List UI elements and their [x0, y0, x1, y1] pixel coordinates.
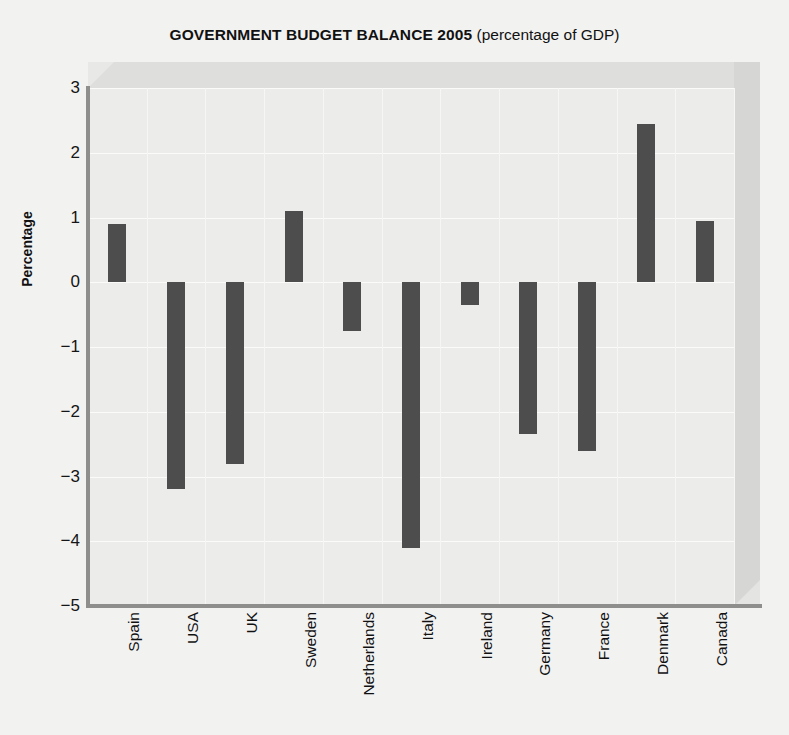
gridline-vertical — [617, 88, 618, 606]
gridline-vertical — [440, 88, 441, 606]
x-axis-labels: SpainUSAUKSwedenNetherlandsItalyIrelandG… — [88, 612, 734, 732]
bar-ireland — [461, 282, 479, 305]
y-tick-label: 3 — [40, 78, 80, 98]
y-tick-label: 2 — [40, 143, 80, 163]
chart-title-main: GOVERNMENT BUDGET BALANCE 2005 — [169, 26, 472, 43]
frame-top-face — [88, 62, 760, 88]
x-tick-label-netherlands: Netherlands — [360, 612, 380, 732]
gridline-vertical — [675, 88, 676, 606]
y-tick-label: −1 — [40, 337, 80, 357]
x-tick-label-uk: UK — [243, 612, 263, 732]
x-tick-label-sweden: Sweden — [302, 612, 322, 732]
gridline-vertical — [205, 88, 206, 606]
gridline-vertical — [382, 88, 383, 606]
chart-figure: GOVERNMENT BUDGET BALANCE 2005 (percenta… — [0, 0, 789, 735]
bar-spain — [108, 224, 126, 282]
y-tick-label: −3 — [40, 467, 80, 487]
bar-canada — [696, 221, 714, 283]
y-tick-label: 0 — [40, 272, 80, 292]
bar-germany — [519, 282, 537, 434]
gridline-vertical — [558, 88, 559, 606]
x-tick-label-spain: Spain — [125, 612, 145, 732]
x-tick-label-denmark: Denmark — [654, 612, 674, 732]
chart-title-subtitle: (percentage of GDP) — [472, 26, 619, 43]
plot-area — [88, 88, 734, 606]
gridline-vertical — [264, 88, 265, 606]
bar-netherlands — [343, 282, 361, 331]
y-tick-label: 1 — [40, 208, 80, 228]
x-axis-spine — [86, 604, 762, 608]
chart-title: GOVERNMENT BUDGET BALANCE 2005 (percenta… — [0, 26, 789, 44]
bar-denmark — [637, 124, 655, 283]
y-axis-ticks: 3210−1−2−3−4−5 — [28, 0, 80, 735]
bar-usa — [167, 282, 185, 489]
x-tick-label-france: France — [595, 612, 615, 732]
bar-france — [578, 282, 596, 450]
x-tick-label-canada: Canada — [713, 612, 733, 732]
x-tick-label-germany: Germany — [536, 612, 556, 732]
gridline-vertical — [734, 88, 735, 606]
bar-sweden — [285, 211, 303, 282]
y-axis-spine — [86, 86, 90, 608]
frame-right-face — [734, 62, 760, 606]
x-tick-label-usa: USA — [184, 612, 204, 732]
bar-italy — [402, 282, 420, 547]
gridline-horizontal — [88, 88, 734, 89]
x-tick-label-italy: Italy — [419, 612, 439, 732]
y-tick-label: −4 — [40, 531, 80, 551]
x-tick-label-ireland: Ireland — [478, 612, 498, 732]
bar-uk — [226, 282, 244, 463]
gridline-vertical — [147, 88, 148, 606]
y-tick-label: −2 — [40, 402, 80, 422]
y-tick-label: −5 — [40, 596, 80, 616]
gridline-vertical — [323, 88, 324, 606]
gridline-vertical — [499, 88, 500, 606]
